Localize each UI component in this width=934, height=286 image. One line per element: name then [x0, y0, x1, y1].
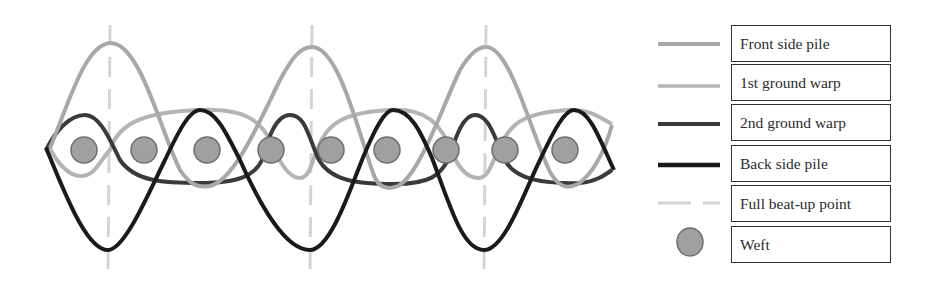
beat-up-line: [310, 25, 312, 280]
legend-label-box: 1st ground warp: [731, 64, 891, 101]
weft: [194, 137, 220, 163]
legend-label: Front side pile: [740, 35, 830, 53]
legend-item-full-beat-up-point: Full beat-up point: [640, 185, 900, 225]
legend-item-first-ground-warp: 1st ground warp: [640, 64, 900, 104]
front-side-pile: [50, 43, 612, 188]
second-ground-warp-swatch-icon: [650, 104, 720, 144]
weft-circle-icon: [650, 226, 720, 266]
legend-item-front-side-pile: Front side pile: [640, 25, 900, 65]
back-side-pile-swatch-icon: [650, 145, 720, 185]
weft: [433, 137, 459, 163]
legend-item-second-ground-warp: 2nd ground warp: [640, 104, 900, 144]
weave-diagram: [0, 0, 620, 286]
weft: [131, 137, 157, 163]
legend-label-box: Full beat-up point: [731, 185, 891, 222]
weft: [552, 137, 578, 163]
weft: [492, 137, 518, 163]
legend-label-box: Front side pile: [731, 25, 891, 62]
legend-label: Full beat-up point: [740, 195, 851, 213]
legend-label-box: 2nd ground warp: [731, 104, 891, 141]
legend-label: 1st ground warp: [740, 74, 841, 92]
legend-label-box: Back side pile: [731, 145, 891, 182]
weft: [318, 137, 344, 163]
legend-label: Weft: [740, 236, 770, 254]
weft: [374, 137, 400, 163]
weft: [258, 137, 284, 163]
legend-item-back-side-pile: Back side pile: [640, 145, 900, 185]
wefts: [71, 137, 578, 163]
legend-label: 2nd ground warp: [740, 114, 846, 132]
front-side-pile-swatch-icon: [650, 25, 720, 65]
legend-label: Back side pile: [740, 155, 828, 173]
dashed-line-swatch-icon: [650, 185, 720, 225]
weft: [71, 137, 97, 163]
beat-up-line: [484, 25, 486, 280]
legend-item-weft: Weft: [640, 226, 900, 266]
legend-label-box: Weft: [731, 226, 891, 263]
first-ground-warp-swatch-icon: [650, 64, 720, 104]
